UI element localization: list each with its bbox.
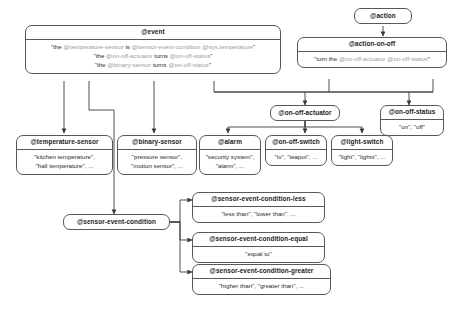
node-event-line-2: "the @binary-sensor turns @on-off-status… bbox=[29, 61, 277, 70]
node-alarm-line-0: "security system", bbox=[203, 153, 257, 162]
node-sensor-event-condition-greater-line-0: "higher than", "greater than", ... bbox=[196, 282, 327, 291]
node-on-off-status-line-0: "on", "off" bbox=[384, 123, 440, 132]
node-temperature-sensor-header: @temperature-sensor bbox=[17, 136, 112, 150]
token-reference: @binary-sensor bbox=[107, 61, 151, 68]
node-event-line-1: "the @on-off-actuator turns @on-off-stat… bbox=[29, 52, 277, 61]
node-binary-sensor[interactable]: @binary-sensor "pressure sensor", "motio… bbox=[117, 135, 197, 175]
node-event[interactable]: @event "the @temperature-sensor is @sens… bbox=[25, 25, 281, 74]
node-sensor-event-condition-greater-header: @sensor-event-condition-greater bbox=[193, 265, 330, 279]
node-sensor-event-condition-less[interactable]: @sensor-event-condition-less "less than"… bbox=[192, 192, 325, 223]
token-reference: @on-off-status bbox=[387, 55, 428, 62]
token-reference: @sensor-event-condition bbox=[132, 43, 201, 50]
node-event-header: @event bbox=[26, 26, 280, 40]
node-sensor-event-condition-less-body: "less than", "lower than", ... bbox=[193, 207, 324, 222]
node-sensor-event-condition-greater-body: "higher than", "greater than", ... bbox=[193, 279, 330, 294]
token-reference: @on-off-actuator bbox=[339, 55, 385, 62]
node-action-on-off[interactable]: @action-on-off "turn the @on-off-actuato… bbox=[297, 37, 447, 68]
node-action-header: @action bbox=[355, 9, 411, 23]
node-sensor-event-condition-equal-body: "equal to" bbox=[193, 247, 324, 262]
node-binary-sensor-line-0: "pressure sensor", bbox=[121, 153, 193, 162]
node-sensor-event-condition[interactable]: @sensor-event-condition bbox=[63, 214, 170, 230]
node-sensor-event-condition-less-header: @sensor-event-condition-less bbox=[193, 193, 324, 207]
node-alarm-header: @alarm bbox=[200, 136, 260, 150]
node-event-line-0: "the @temperature-sensor is @sensor-even… bbox=[29, 43, 277, 52]
node-sensor-event-condition-less-line-0: "less than", "lower than", ... bbox=[196, 210, 321, 219]
node-light-switch-body: "light", "lights", ... bbox=[332, 150, 392, 165]
node-sensor-event-condition-equal-header: @sensor-event-condition-equal bbox=[193, 233, 324, 247]
node-light-switch-header: @light-switch bbox=[332, 136, 392, 150]
token-reference: @on-off-status bbox=[170, 52, 211, 59]
node-action-on-off-line-0: "turn the @on-off-actuator @on-off-statu… bbox=[301, 55, 443, 64]
token-reference: @on-off-actuator bbox=[106, 52, 152, 59]
node-sensor-event-condition-greater[interactable]: @sensor-event-condition-greater "higher … bbox=[192, 264, 331, 295]
token-reference: @temperature-sensor bbox=[63, 43, 123, 50]
node-on-off-switch-line-0: "tv", "teapot", ... bbox=[269, 153, 323, 162]
node-event-body: "the @temperature-sensor is @sensor-even… bbox=[26, 40, 280, 73]
node-light-switch[interactable]: @light-switch "light", "lights", ... bbox=[331, 135, 393, 166]
node-light-switch-line-0: "light", "lights", ... bbox=[335, 153, 389, 162]
node-on-off-status[interactable]: @on-off-status "on", "off" bbox=[380, 105, 444, 136]
node-sensor-event-condition-header: @sensor-event-condition bbox=[64, 215, 169, 229]
diagram-canvas: @event "the @temperature-sensor is @sens… bbox=[0, 0, 464, 311]
node-on-off-actuator[interactable]: @on-off-actuator bbox=[270, 105, 340, 121]
node-temperature-sensor-line-0: "kitchen temperature", bbox=[20, 153, 109, 162]
node-temperature-sensor-body: "kitchen temperature", "hall temperature… bbox=[17, 150, 112, 174]
node-alarm-body: "security system", "alarm", ... bbox=[200, 150, 260, 174]
node-action[interactable]: @action bbox=[354, 8, 412, 24]
node-on-off-switch-body: "tv", "teapot", ... bbox=[266, 150, 326, 165]
token-reference: @on-off-status bbox=[168, 61, 209, 68]
node-sensor-event-condition-equal-line-0: "equal to" bbox=[196, 250, 321, 259]
node-on-off-status-body: "on", "off" bbox=[381, 120, 443, 135]
node-on-off-switch-header: @on-off-switch bbox=[266, 136, 326, 150]
node-sensor-event-condition-equal[interactable]: @sensor-event-condition-equal "equal to" bbox=[192, 232, 325, 263]
node-on-off-actuator-header: @on-off-actuator bbox=[271, 106, 339, 120]
node-on-off-status-header: @on-off-status bbox=[381, 106, 443, 120]
node-alarm-line-1: "alarm", ... bbox=[203, 162, 257, 171]
node-binary-sensor-line-1: "motion sensor", ... bbox=[121, 162, 193, 171]
node-temperature-sensor[interactable]: @temperature-sensor "kitchen temperature… bbox=[16, 135, 113, 175]
node-temperature-sensor-line-1: "hall temperature", ... bbox=[20, 162, 109, 171]
node-binary-sensor-header: @binary-sensor bbox=[118, 136, 196, 150]
node-binary-sensor-body: "pressure sensor", "motion sensor", ... bbox=[118, 150, 196, 174]
node-action-on-off-header: @action-on-off bbox=[298, 38, 446, 52]
token-reference: @sys.temperature bbox=[202, 43, 253, 50]
node-action-on-off-body: "turn the @on-off-actuator @on-off-statu… bbox=[298, 52, 446, 67]
node-on-off-switch[interactable]: @on-off-switch "tv", "teapot", ... bbox=[265, 135, 327, 166]
node-alarm[interactable]: @alarm "security system", "alarm", ... bbox=[199, 135, 261, 175]
